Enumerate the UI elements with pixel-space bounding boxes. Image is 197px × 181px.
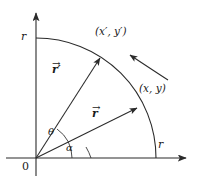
r-vector-label: → r: [92, 108, 98, 119]
y-axis-r-label: r: [21, 31, 26, 42]
radius-arc: [36, 38, 156, 158]
x-axis-r-label: r: [158, 139, 163, 150]
vector-rotation-diagram: r r 0 θ α (x′, y′) (x, y) → r′ → r: [0, 0, 197, 181]
vector-arrow-overset: →: [52, 59, 58, 69]
alpha-angle-label: α: [66, 143, 73, 153]
origin-label: 0: [22, 161, 29, 172]
original-point-label: (x, y): [139, 83, 166, 94]
r-vector-symbol-stack: → r: [92, 108, 98, 119]
rotation-direction-arrow: [130, 55, 168, 80]
theta-angle-label: θ: [48, 127, 54, 137]
alpha-angle-arc: [86, 147, 91, 158]
r-prime-vector-symbol-stack: → r: [52, 64, 58, 75]
rotated-point-label: (x′, y′): [95, 26, 127, 37]
vector-arrow-overset: →: [92, 103, 98, 113]
r-prime-vector-label: → r′: [52, 64, 61, 75]
